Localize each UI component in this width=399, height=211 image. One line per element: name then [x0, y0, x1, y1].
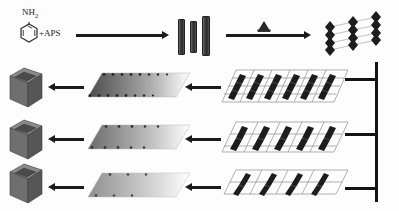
- lattice-medium: [222, 118, 350, 162]
- nanorod-group: [178, 12, 218, 56]
- transfer-arrow-row2: [48, 138, 84, 141]
- lattice-sparse: [222, 166, 350, 208]
- reaction-scheme-figure: NH2 +APS: [0, 0, 399, 211]
- nanorod-3: [202, 16, 210, 56]
- amine-subscript: 2: [35, 12, 38, 19]
- cone-stack-1: [325, 21, 335, 56]
- distribution-trunk: [367, 62, 383, 202]
- gradient-sheet-dark: [88, 70, 192, 106]
- nanorod-1: [178, 19, 185, 55]
- polymerization-arrow: [76, 34, 170, 37]
- transfer-arrow-row3: [48, 186, 84, 189]
- amine-label: NH2: [22, 7, 38, 19]
- lattice-dense: [222, 66, 350, 112]
- benzene-ring: [18, 22, 40, 44]
- product-cube-3: [6, 160, 48, 208]
- nanorod-2: [190, 21, 197, 53]
- stacked-cone-assembly: [324, 5, 396, 57]
- transfer-arrow-row1: [48, 86, 84, 89]
- gradient-sheet-medium: [88, 122, 192, 158]
- gradient-sheet-light: [88, 170, 192, 206]
- cone-stack-2: [348, 16, 358, 51]
- oxidant-label: +APS: [39, 28, 61, 38]
- amine-text: NH: [22, 7, 35, 17]
- product-cube-1: [6, 64, 48, 112]
- cone-stack-3: [371, 11, 381, 46]
- assembly-arrow: [226, 34, 312, 37]
- product-cube-2: [6, 116, 48, 164]
